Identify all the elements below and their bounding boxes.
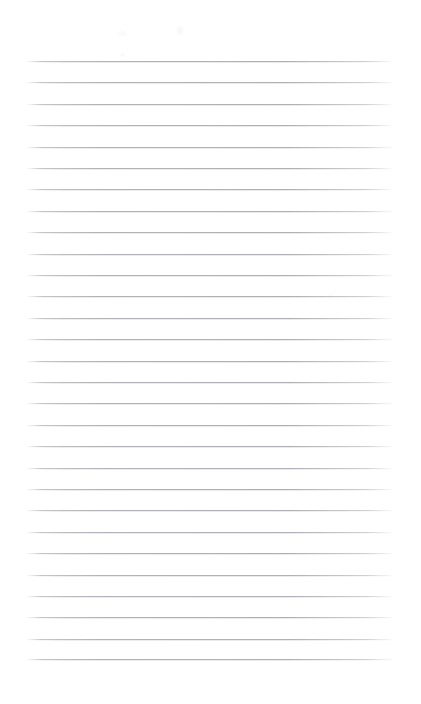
rule-line (27, 296, 392, 297)
rule-line (27, 468, 392, 469)
rule-line (27, 168, 392, 169)
rule-line (27, 318, 392, 319)
rule-line (27, 189, 392, 190)
rule-line (27, 82, 392, 83)
rule-line (27, 403, 392, 404)
ruled-writing-area (0, 0, 421, 704)
rule-line (27, 510, 392, 511)
rule-line (27, 147, 392, 148)
rule-line (27, 489, 392, 490)
rule-line (27, 211, 392, 212)
rule-line (27, 339, 392, 340)
rule-line (27, 275, 392, 276)
rule-line (27, 125, 392, 126)
rule-line (27, 104, 392, 105)
rule-line (27, 425, 392, 426)
rule-line (27, 61, 392, 62)
rule-line (27, 382, 392, 383)
page-footer-band (0, 660, 421, 704)
rule-line (27, 446, 392, 447)
rule-line (27, 361, 392, 362)
rule-line (27, 575, 392, 576)
rule-line (27, 617, 392, 618)
rule-line (27, 553, 392, 554)
rule-line (27, 254, 392, 255)
notebook-page (0, 0, 421, 704)
rule-line (27, 532, 392, 533)
rule-line (27, 232, 392, 233)
rule-line (27, 639, 392, 640)
rule-line (27, 596, 392, 597)
